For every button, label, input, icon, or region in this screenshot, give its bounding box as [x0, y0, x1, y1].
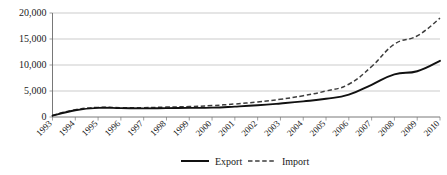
y-axis-tick-label: 15,000	[19, 33, 47, 44]
x-axis-tick-label: 2004	[285, 118, 305, 138]
chart-legend: Export Import	[181, 156, 309, 167]
series-line-import	[53, 18, 441, 115]
x-axis-tick-label: 1999	[171, 118, 191, 138]
y-axis-tick-marks	[50, 13, 53, 117]
line-chart: 05,00010,00015,00020,000 199319941995199…	[0, 0, 447, 175]
y-axis-tick-label: 20,000	[19, 7, 47, 18]
x-axis-tick-label: 2005	[308, 118, 328, 138]
series-line-export	[53, 61, 441, 116]
y-axis-tick-label: 10,000	[19, 59, 47, 70]
x-axis-tick-label: 2008	[376, 118, 396, 138]
x-axis-tick-marks	[53, 117, 441, 121]
x-axis-tick-label: 2007	[353, 118, 373, 138]
legend-label-import: Import	[282, 156, 309, 167]
x-axis-tick-label: 2006	[330, 118, 350, 138]
x-axis-tick-label: 2003	[262, 118, 282, 138]
x-axis-tick-label: 2002	[239, 118, 259, 138]
x-axis-tick-label: 2009	[399, 118, 419, 138]
x-axis-tick-label: 1996	[102, 118, 122, 138]
x-axis-tick-label: 2001	[216, 118, 236, 138]
x-axis-tick-label: 1994	[57, 118, 77, 138]
chart-canvas: 05,00010,00015,00020,000 199319941995199…	[0, 0, 447, 175]
y-axis-tick-labels: 05,00010,00015,00020,000	[19, 7, 47, 122]
x-axis-tick-label: 1995	[80, 118, 100, 138]
x-axis-tick-label: 2010	[422, 118, 442, 138]
x-axis-tick-label: 2000	[194, 118, 214, 138]
legend-label-export: Export	[215, 156, 242, 167]
x-axis-tick-labels: 1993199419951996199719981999200020012002…	[34, 118, 442, 138]
x-axis-tick-label: 1997	[125, 118, 145, 138]
y-axis-tick-label: 5,000	[24, 85, 47, 96]
x-axis-tick-label: 1993	[34, 118, 54, 138]
x-axis-tick-label: 1998	[148, 118, 168, 138]
